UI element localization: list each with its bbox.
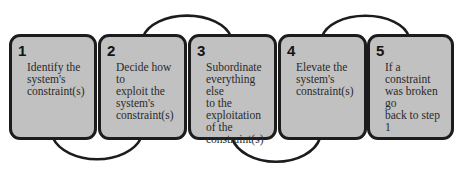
step-box-2: 2 Decide how to exploit the system's con… — [98, 34, 187, 140]
step-text: If a constraint was broken go back to st… — [385, 61, 451, 133]
step-number: 5 — [376, 43, 451, 58]
step-number: 4 — [287, 43, 364, 58]
step-box-4: 4 Elevate the system's constraint(s) — [278, 34, 367, 140]
step-box-1: 1 Identify the system's constraint(s) — [9, 34, 97, 140]
step-box-3: 3 Subordinate everything else to the exp… — [188, 34, 277, 140]
five-focusing-steps-diagram: 1 Identify the system's constraint(s) 2 … — [0, 0, 466, 176]
step-number: 2 — [107, 43, 184, 58]
connector-arc-1-2 — [53, 138, 141, 159]
step-text: Identify the system's constraint(s) — [27, 61, 94, 97]
step-text: Subordinate everything else to the explo… — [206, 61, 274, 145]
step-text: Decide how to exploit the system's const… — [116, 61, 184, 121]
step-number: 3 — [197, 43, 274, 58]
step-box-5: 5 If a constraint was broken go back to … — [367, 34, 454, 140]
step-text: Elevate the system's constraint(s) — [296, 61, 364, 97]
step-number: 1 — [18, 43, 94, 58]
